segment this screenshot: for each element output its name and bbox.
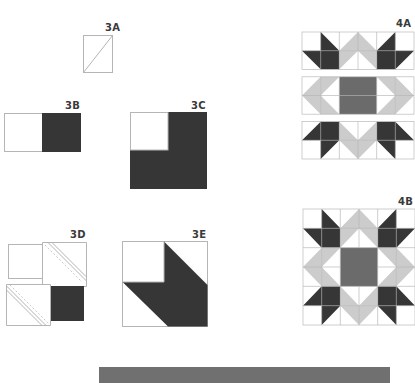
figure-label-3e: 3E: [192, 230, 206, 240]
figure-3a-half-square-triangle: [83, 35, 113, 73]
gray-banner-bar: [99, 367, 390, 383]
figure-label-3b: 3B: [65, 101, 80, 111]
figure-3e-bear-paw-unit: [122, 241, 208, 327]
figure-label-3c: 3C: [191, 101, 206, 111]
figure-label-4a: 4A: [396, 19, 411, 29]
figure-label-3a: 3A: [105, 23, 120, 33]
figure-4b-assembled-block: [303, 209, 415, 325]
figure-3b-two-patch: [4, 113, 81, 152]
figure-3d-assembly: [0, 235, 95, 330]
figure-3c-four-patch: [130, 112, 207, 189]
figure-4a-block-rows: [302, 32, 414, 159]
figure-label-4b: 4B: [398, 197, 413, 207]
